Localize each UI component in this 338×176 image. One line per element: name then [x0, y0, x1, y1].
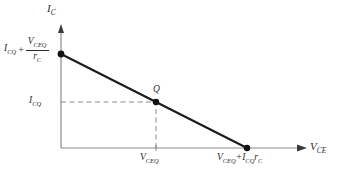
q-point-label: Q	[153, 85, 160, 95]
x-intercept-label: VCEQ+ICQrC	[217, 153, 262, 164]
x-axis-label: VCE	[310, 141, 326, 155]
y-intercept-label: ICQ + VCEQ rC	[4, 37, 49, 63]
q-point-marker	[153, 99, 159, 105]
y-axis-label: IC	[47, 3, 56, 17]
icq-label: ICQ	[29, 96, 41, 107]
vceq-label-subscript: CEQ	[146, 157, 159, 164]
x-intercept-point-marker	[244, 145, 250, 151]
y-intercept-first-term: ICQ	[4, 44, 16, 55]
x-intercept-term2-subscript: CQ	[245, 157, 254, 164]
icq-label-subscript: CQ	[32, 100, 41, 107]
x-axis-label-main: V	[310, 140, 317, 152]
vceq-label: VCEQ	[140, 153, 159, 164]
y-intercept-denominator-subscript: C	[37, 56, 41, 63]
y-intercept-first-term-subscript: CQ	[7, 48, 16, 55]
y-axis-arrowhead	[58, 24, 64, 33]
load-line-figure: IC VCE ICQ + VCEQ rC ICQ VCEQ VCEQ+ICQrC…	[0, 0, 338, 176]
y-intercept-fraction: VCEQ rC	[26, 37, 49, 63]
x-axis-label-subscript: CE	[317, 146, 327, 155]
y-intercept-point-marker	[58, 51, 65, 58]
load-line-plot	[0, 0, 338, 176]
y-intercept-fraction-numerator: VCEQ	[26, 37, 49, 50]
x-intercept-term3-subscript: C	[258, 157, 262, 164]
y-intercept-plus-operator: +	[16, 45, 26, 55]
y-axis-label-subscript: C	[51, 8, 56, 17]
y-intercept-numerator-subscript: CEQ	[34, 41, 47, 48]
y-intercept-fraction-denominator: rC	[31, 51, 43, 64]
x-intercept-term1-subscript: CEQ	[223, 157, 236, 164]
x-axis-arrowhead	[297, 145, 307, 152]
